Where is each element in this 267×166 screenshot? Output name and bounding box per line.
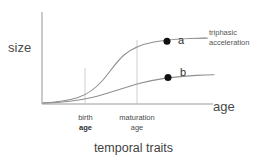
- growth-curve-figure: size age a b triphasic acceleration birt…: [0, 0, 267, 166]
- annotation-line-1: triphasic: [209, 28, 237, 37]
- data-point-b: [165, 74, 172, 81]
- annotation-line-2: acceleration: [209, 38, 249, 47]
- curve-b: [43, 75, 214, 104]
- x-tick-birth-age: birth age: [58, 113, 113, 133]
- x-tick-maturation-age: maturation age: [106, 113, 168, 133]
- x-tick-maturation-line-2: age: [106, 123, 168, 133]
- y-axis-label: size: [8, 41, 31, 55]
- curve-a-label: a: [178, 35, 184, 47]
- triphasic-acceleration-annotation: triphasic acceleration: [209, 28, 249, 48]
- x-axis-label: age: [213, 100, 235, 114]
- data-point-a: [164, 38, 171, 45]
- curve-b-label: b: [180, 67, 186, 79]
- x-tick-birth-line-2: age: [58, 123, 113, 133]
- x-tick-maturation-line-1: maturation: [106, 113, 168, 123]
- figure-caption: temporal traits: [0, 141, 267, 155]
- x-tick-birth-line-1: birth: [58, 113, 113, 123]
